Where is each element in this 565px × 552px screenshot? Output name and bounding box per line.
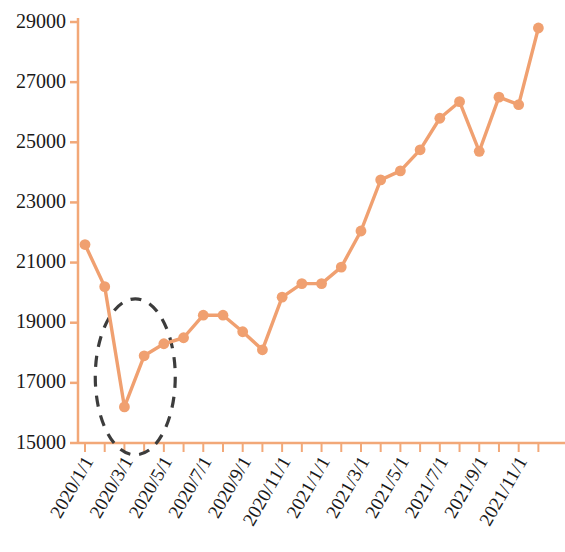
data-point[interactable] <box>237 326 248 337</box>
y-tick-label: 23000 <box>16 190 66 212</box>
data-point[interactable] <box>454 96 465 107</box>
data-point[interactable] <box>434 113 445 124</box>
line-chart: 1500017000190002100023000250002700029000… <box>0 0 565 552</box>
y-tick-label: 19000 <box>16 310 66 332</box>
data-point[interactable] <box>356 226 367 237</box>
data-point[interactable] <box>395 165 406 176</box>
y-tick-label: 21000 <box>16 250 66 272</box>
data-point[interactable] <box>513 99 524 110</box>
data-point[interactable] <box>178 332 189 343</box>
data-point[interactable] <box>257 344 268 355</box>
data-point[interactable] <box>139 350 150 361</box>
chart-canvas: 1500017000190002100023000250002700029000… <box>0 0 565 552</box>
data-point[interactable] <box>119 402 130 413</box>
y-tick-label: 25000 <box>16 130 66 152</box>
data-point[interactable] <box>198 310 209 321</box>
data-point[interactable] <box>218 310 229 321</box>
data-point[interactable] <box>158 338 169 349</box>
x-axis <box>78 443 565 452</box>
data-series <box>80 23 544 413</box>
x-axis-labels: 2020/1/12020/3/12020/5/12020/7/12020/9/1… <box>45 453 531 530</box>
series-line <box>85 28 538 407</box>
data-point[interactable] <box>494 92 505 103</box>
data-point[interactable] <box>296 278 307 289</box>
y-tick-label: 27000 <box>16 70 66 92</box>
y-tick-label: 29000 <box>16 10 66 32</box>
data-point[interactable] <box>415 144 426 155</box>
data-point[interactable] <box>80 239 91 250</box>
data-point[interactable] <box>316 278 327 289</box>
data-point[interactable] <box>277 292 288 303</box>
y-axis: 1500017000190002100023000250002700029000 <box>16 10 78 453</box>
data-point[interactable] <box>99 281 110 292</box>
y-tick-label: 15000 <box>16 431 66 453</box>
data-point[interactable] <box>474 146 485 157</box>
data-point[interactable] <box>533 23 544 34</box>
data-point[interactable] <box>375 174 386 185</box>
data-point[interactable] <box>336 262 347 273</box>
y-tick-label: 17000 <box>16 370 66 392</box>
